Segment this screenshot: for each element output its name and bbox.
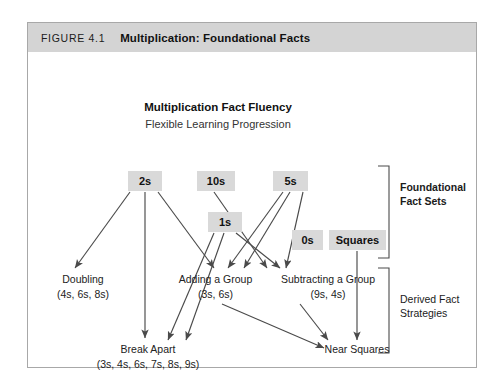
strategy-doubling: Doubling (4s, 6s, 8s) xyxy=(38,272,128,302)
fact-box-1s[interactable]: 1s xyxy=(208,212,242,232)
fact-box-10s-label: 10s xyxy=(207,175,225,187)
strategy-break-apart-facts: (3s, 4s, 6s, 7s, 8s, 9s) xyxy=(58,357,238,372)
figure-frame: FIGURE 4.1 Multiplication: Foundational … xyxy=(27,22,477,368)
fact-box-5s[interactable]: 5s xyxy=(273,171,308,191)
bracket-foundational-line2: Fact Sets xyxy=(400,194,486,208)
fact-box-2s[interactable]: 2s xyxy=(128,171,162,191)
arrow-1s-to-subtracting xyxy=(236,233,280,268)
bracket-label-foundational: Foundational Fact Sets xyxy=(400,180,486,208)
fact-box-0s-label: 0s xyxy=(301,234,313,246)
figure-header: FIGURE 4.1 Multiplication: Foundational … xyxy=(28,23,476,52)
strategy-adding-name: Adding a Group xyxy=(179,273,253,285)
strategy-break-apart: Break Apart (3s, 4s, 6s, 7s, 8s, 9s) xyxy=(58,342,238,372)
fact-box-10s[interactable]: 10s xyxy=(197,171,235,191)
fact-box-0s[interactable]: 0s xyxy=(292,230,323,250)
arrow-2s-to-adding xyxy=(158,192,214,268)
strategy-near-squares: Near Squares xyxy=(300,342,414,357)
figure-title: Multiplication: Foundational Facts xyxy=(120,32,310,44)
fact-box-2s-label: 2s xyxy=(139,175,151,187)
strategy-break-apart-name: Break Apart xyxy=(121,343,176,355)
bracket-derived-line1: Derived Fact xyxy=(400,292,486,306)
bracket-foundational-line1: Foundational xyxy=(400,180,486,194)
fact-box-1s-label: 1s xyxy=(219,216,231,228)
strategy-doubling-facts: (4s, 6s, 8s) xyxy=(38,287,128,302)
strategy-near-squares-name: Near Squares xyxy=(325,343,390,355)
strategy-subtracting-facts: (9s, 4s) xyxy=(258,287,398,302)
bracket-derived-line2: Strategies xyxy=(400,306,486,320)
strategy-doubling-name: Doubling xyxy=(62,273,103,285)
arrow-2s-to-doubling xyxy=(75,192,130,268)
fact-box-5s-label: 5s xyxy=(284,175,296,187)
fact-box-squares[interactable]: Squares xyxy=(329,230,386,250)
strategy-subtracting-name: Subtracting a Group xyxy=(281,273,375,285)
figure-number: FIGURE 4.1 xyxy=(41,32,105,44)
arrow-subtracting-down-nearsquares xyxy=(300,304,328,340)
diagram-canvas: Multiplication Fact Fluency Flexible Lea… xyxy=(28,52,476,367)
arrow-5s-to-addingb xyxy=(244,192,290,268)
bracket-label-derived: Derived Fact Strategies xyxy=(400,292,486,320)
fact-box-squares-label: Squares xyxy=(336,234,379,246)
strategy-subtracting: Subtracting a Group (9s, 4s) xyxy=(258,272,398,302)
